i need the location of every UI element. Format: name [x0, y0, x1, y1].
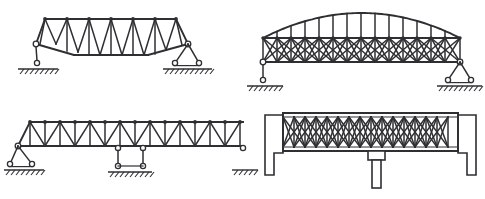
right-pin-support	[240, 145, 245, 150]
top-joint	[73, 120, 77, 124]
mid-pin-0	[115, 145, 120, 150]
top-joint	[153, 17, 157, 21]
top-joint	[109, 17, 113, 21]
left-roller	[34, 60, 39, 65]
top-joint	[43, 120, 47, 124]
top-joint	[103, 120, 107, 124]
top-joint	[131, 17, 135, 21]
right-roller	[445, 77, 450, 82]
left-roller	[7, 161, 12, 166]
left-roller	[260, 77, 265, 82]
top-joint	[223, 120, 227, 124]
top-joint	[133, 120, 137, 124]
top-joint	[43, 17, 47, 21]
right-roller	[468, 77, 473, 82]
left-pin-support	[260, 59, 266, 65]
right-roller	[172, 60, 177, 65]
diagram-sheet	[0, 0, 485, 199]
left-roller	[29, 161, 34, 166]
mid-pin-1	[140, 145, 145, 150]
top-joint	[87, 17, 91, 21]
truss-diagram-svg	[0, 0, 485, 199]
left-rocker-link	[36, 47, 37, 61]
top-joint	[193, 120, 197, 124]
right-roller	[196, 60, 201, 65]
pier-column	[372, 160, 381, 188]
top-joint	[163, 120, 167, 124]
pier-cap	[368, 151, 385, 160]
background	[0, 0, 485, 199]
top-joint	[174, 17, 178, 21]
top-joint	[65, 17, 69, 21]
left-pin-support	[33, 41, 39, 47]
